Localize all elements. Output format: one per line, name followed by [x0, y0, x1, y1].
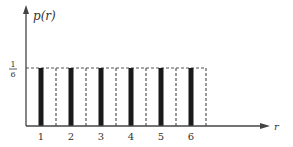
bars: [39, 68, 194, 126]
x-tick-label: 6: [188, 131, 194, 142]
bar-5: [159, 68, 164, 126]
y-axis-arrow-icon: [23, 5, 29, 14]
bar-2: [69, 68, 74, 126]
bar-4: [129, 68, 134, 126]
bar-1: [39, 68, 44, 126]
y-axis-label: p(r): [33, 9, 56, 23]
y-tick-denominator: 6: [10, 70, 15, 79]
x-tick-label: 3: [98, 131, 104, 142]
dashed-unit-boxes: [26, 68, 206, 126]
x-axis-arrow-icon: [260, 123, 270, 129]
x-tick-label: 2: [68, 131, 74, 142]
y-tick-numerator: 1: [10, 60, 15, 69]
x-tick-label: 5: [158, 131, 164, 142]
bar-6: [189, 68, 194, 126]
y-tick-label: 1 6: [9, 60, 17, 79]
bar-3: [99, 68, 104, 126]
probability-chart: p(r) r 1 6 123456: [0, 0, 293, 147]
x-tick-label: 4: [128, 131, 134, 142]
x-tick-labels: 123456: [38, 131, 194, 142]
x-tick-label: 1: [38, 131, 44, 142]
x-axis-label: r: [274, 121, 280, 132]
axes: [26, 12, 262, 126]
